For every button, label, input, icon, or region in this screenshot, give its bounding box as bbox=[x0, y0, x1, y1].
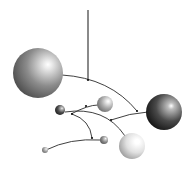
spheres-group bbox=[13, 48, 182, 159]
tiny-mid-sphere bbox=[100, 136, 108, 144]
dark-right-sphere bbox=[146, 94, 182, 130]
wire-right-lower-arm bbox=[111, 112, 148, 120]
wire-joint bbox=[91, 137, 93, 139]
wire-joint bbox=[71, 113, 73, 115]
white-bottom-sphere bbox=[119, 133, 145, 159]
wire-joint bbox=[85, 105, 87, 107]
wire-bottom-arm bbox=[46, 140, 100, 150]
tiny-left-sphere bbox=[42, 147, 48, 153]
small-light-sphere bbox=[97, 96, 113, 112]
large-gray-sphere bbox=[13, 48, 63, 98]
small-dark-sphere bbox=[55, 105, 65, 115]
wire-joint bbox=[136, 110, 138, 112]
wire-joint bbox=[87, 79, 89, 81]
wire-left-arm-down bbox=[72, 114, 92, 138]
mobile-scene bbox=[0, 0, 187, 171]
wire-joint bbox=[110, 119, 112, 121]
